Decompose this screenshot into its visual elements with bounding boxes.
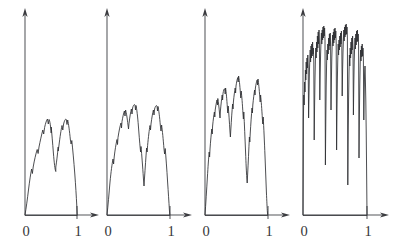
panel-canvas-3: 01 [0, 0, 399, 245]
x-tick-label-zero-3: 0 [300, 223, 307, 239]
panel-iteration-4: 01 [0, 0, 399, 245]
fractal-iteration-figure: 01010101 [0, 0, 399, 245]
curve-iteration-4 [303, 24, 367, 215]
x-tick-label-one-3: 1 [364, 223, 371, 239]
